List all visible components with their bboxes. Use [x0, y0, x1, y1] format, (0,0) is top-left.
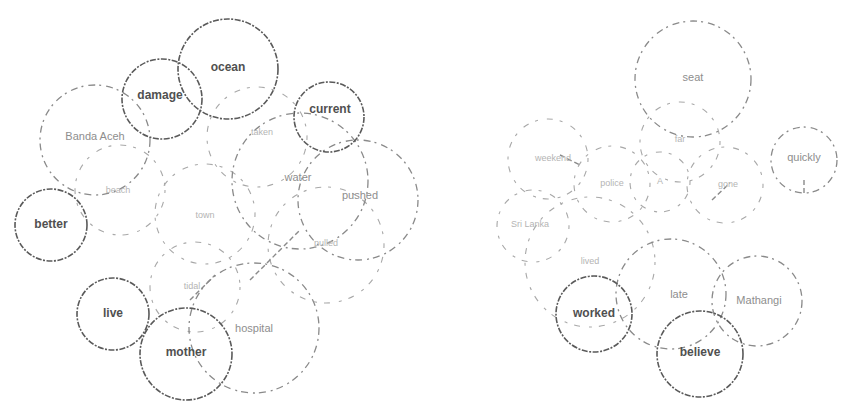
right-cluster: seat far quickly weekend police A gone S…: [497, 21, 837, 397]
label-better: better: [34, 217, 68, 231]
label-live: live: [103, 306, 123, 320]
stray-stroke: [250, 230, 300, 280]
label-quickly: quickly: [787, 151, 821, 163]
label-believe: believe: [680, 345, 721, 359]
label-tidal: tidal: [184, 281, 201, 291]
label-seat: seat: [683, 71, 704, 83]
label-taken: taken: [251, 127, 273, 137]
label-far: far: [675, 134, 686, 144]
label-gone: gone: [718, 179, 738, 189]
label-banda-aceh: Banda Aceh: [65, 130, 124, 142]
left-cluster: ocean damage current Banda Aceh water pu…: [15, 19, 418, 400]
label-weekend: weekend: [534, 153, 571, 163]
label-town: town: [195, 210, 214, 220]
label-worked: worked: [572, 306, 615, 320]
label-pushed: pushed: [342, 189, 378, 201]
label-damage: damage: [137, 88, 183, 102]
label-late: late: [670, 288, 688, 300]
label-ocean: ocean: [211, 60, 246, 74]
label-mother: mother: [166, 345, 207, 359]
label-water: water: [284, 171, 312, 183]
label-sri-lanka: Sri Lanka: [511, 219, 549, 229]
label-a: A: [657, 176, 663, 186]
label-current: current: [309, 102, 350, 116]
label-lived: lived: [581, 256, 600, 266]
label-police: police: [600, 178, 624, 188]
label-beach: beach: [106, 185, 131, 195]
label-hospital: hospital: [235, 322, 273, 334]
word-bubble-diagram: ocean damage current Banda Aceh water pu…: [0, 0, 847, 418]
label-pulled: pulled: [314, 238, 338, 248]
bubble-current: [294, 82, 364, 152]
label-mathangi: Mathangi: [736, 294, 781, 306]
